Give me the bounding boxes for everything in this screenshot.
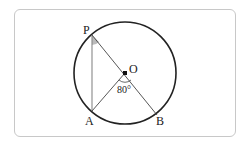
label-angle: 80°	[117, 84, 131, 95]
label-p: P	[83, 23, 90, 37]
center-dot	[123, 71, 127, 75]
label-b: B	[156, 114, 164, 128]
label-a: A	[85, 114, 94, 128]
circle-diagram: P O 80° A B	[0, 0, 251, 147]
label-o: O	[129, 62, 138, 76]
